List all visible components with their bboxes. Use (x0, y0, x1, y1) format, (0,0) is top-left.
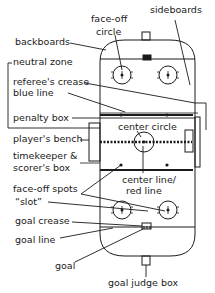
players-bench-box (89, 123, 100, 161)
goal-top (143, 55, 151, 60)
label-center-circle: center circle (118, 122, 177, 132)
label-blue-line: blue line (13, 88, 54, 98)
label-scorers-box: scorer's box (13, 163, 70, 173)
label-neutral-zone: neutral zone (13, 57, 73, 67)
label-players-bench: player's bench (13, 134, 83, 144)
label-goal-crease: goal crease (15, 216, 70, 226)
label-goal: goal (55, 261, 75, 271)
label-penalty-box: penalty box (13, 113, 69, 123)
label-face-off-spots: face-off spots (13, 184, 78, 194)
timekeeper-box (195, 117, 200, 167)
rink-boards (100, 40, 195, 256)
label-timekeeper: timekeeper & (13, 151, 78, 161)
label-center-line: center line/ (122, 175, 176, 185)
label-goal-judge-box: goal judge box (108, 278, 178, 288)
label-referees-crease: referee's crease (13, 77, 89, 87)
goal-judge-box-top (142, 32, 150, 40)
label-face-off-circle-2: circle (96, 27, 121, 37)
label-face-off-circle: face-off (91, 14, 127, 24)
label-sideboards: sideboards (150, 5, 202, 15)
label-backboards: backboards (15, 37, 70, 47)
goal-judge-box-bottom (142, 256, 150, 265)
label-red-line: red line (126, 186, 162, 196)
label-slot: “slot” (15, 197, 42, 207)
label-goal-line: goal line (15, 235, 55, 245)
